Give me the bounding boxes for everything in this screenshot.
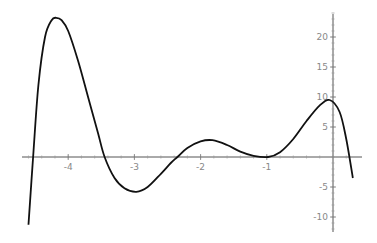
y-tick-label: 20 — [317, 32, 329, 42]
function-curve — [28, 18, 352, 225]
tick-labels: -4-3-2-1-10-55101520 — [64, 32, 329, 222]
y-tick-label: -5 — [319, 182, 328, 192]
line-chart: -4-3-2-1-10-55101520 — [0, 0, 377, 243]
x-tick-label: -4 — [64, 162, 73, 172]
x-tick-label: -2 — [196, 162, 205, 172]
y-tick-label: 15 — [317, 62, 328, 72]
y-tick-label: 5 — [322, 122, 328, 132]
x-tick-label: -1 — [262, 162, 271, 172]
y-tick-label: -10 — [313, 212, 328, 222]
x-tick-label: -3 — [130, 162, 139, 172]
